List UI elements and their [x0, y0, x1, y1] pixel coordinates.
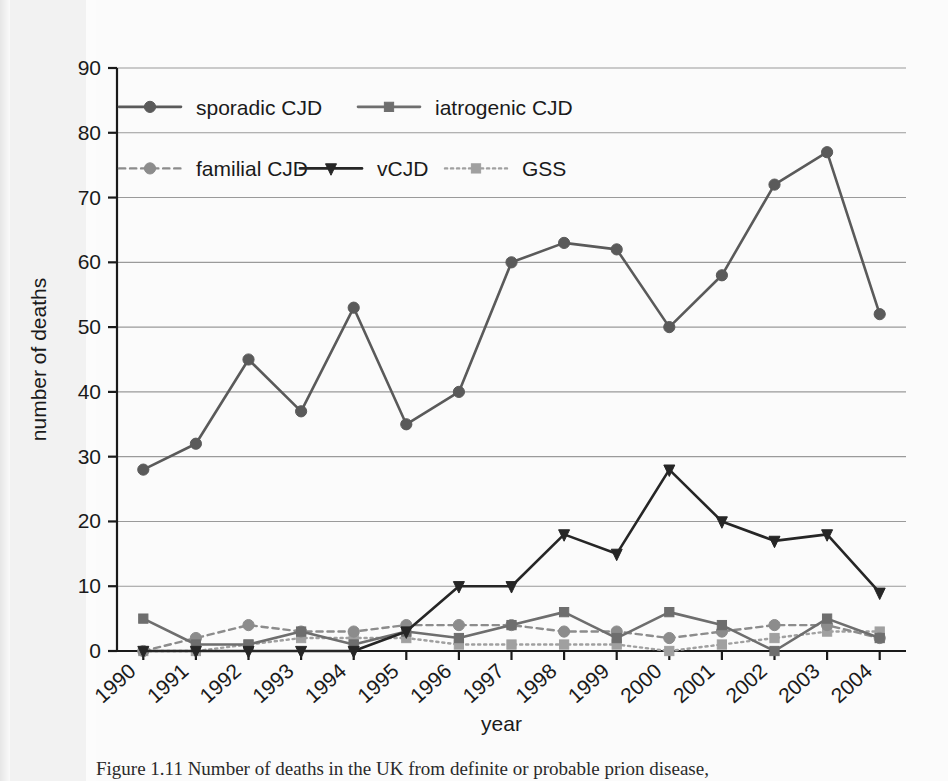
data-point — [770, 646, 779, 655]
data-point — [348, 626, 359, 637]
data-point — [769, 179, 780, 190]
y-axis-title: number of deaths — [27, 278, 50, 441]
legend-label: familial CJD — [196, 157, 308, 180]
chart-figure: 0102030405060708090199019911992199319941… — [0, 0, 948, 740]
data-point — [717, 620, 726, 629]
data-point — [717, 640, 726, 649]
y-tick-label: 20 — [78, 509, 101, 532]
y-tick-label: 50 — [78, 315, 101, 338]
x-tick-label: 2004 — [826, 659, 876, 708]
data-point — [507, 620, 516, 629]
line-chart: 0102030405060708090199019911992199319941… — [0, 0, 948, 740]
data-point — [559, 640, 568, 649]
x-tick-label: 1992 — [195, 659, 245, 707]
x-tick-label: 1994 — [300, 659, 350, 708]
data-point — [769, 619, 780, 630]
data-point — [664, 632, 675, 643]
legend-marker — [144, 163, 155, 174]
data-point — [611, 244, 622, 255]
y-tick-label: 60 — [78, 250, 101, 273]
data-point — [559, 626, 570, 637]
data-point — [138, 464, 149, 475]
data-point — [453, 386, 464, 397]
x-tick-label: 1993 — [248, 659, 298, 707]
data-point — [875, 633, 884, 642]
legend-marker — [384, 102, 393, 111]
data-point — [243, 619, 254, 630]
data-point — [822, 614, 831, 623]
data-point — [559, 608, 568, 617]
data-point — [665, 646, 674, 655]
y-tick-label: 0 — [89, 639, 101, 662]
data-point — [665, 608, 674, 617]
data-point — [822, 147, 833, 158]
data-point — [296, 627, 305, 636]
data-point — [507, 640, 516, 649]
y-tick-label: 40 — [78, 380, 101, 403]
y-tick-label: 10 — [78, 574, 101, 597]
y-tick-label: 90 — [78, 56, 101, 79]
data-point — [612, 633, 621, 642]
x-tick-label: 1990 — [90, 659, 140, 707]
x-tick-label: 1995 — [353, 659, 403, 707]
data-point — [664, 322, 675, 333]
figure-caption: Figure 1.11 Number of deaths in the UK f… — [96, 757, 896, 781]
data-point — [874, 309, 885, 320]
data-point — [506, 257, 517, 268]
legend-label: vCJD — [377, 157, 428, 180]
y-tick-label: 80 — [78, 121, 101, 144]
x-tick-label: 1997 — [458, 659, 508, 707]
figure-page: 0102030405060708090199019911992199319941… — [0, 0, 948, 781]
data-point — [296, 406, 307, 417]
data-point — [401, 419, 412, 430]
data-point — [559, 237, 570, 248]
x-tick-label: 2002 — [721, 659, 771, 707]
x-tick-label: 2003 — [774, 659, 824, 707]
y-tick-label: 70 — [78, 186, 101, 209]
legend-marker — [471, 164, 480, 173]
legend-label: iatrogenic CJD — [435, 96, 573, 119]
y-tick-label: 30 — [78, 445, 101, 468]
x-tick-label: 2001 — [668, 659, 718, 707]
x-tick-label: 2000 — [616, 659, 666, 707]
x-tick-label: 1991 — [142, 659, 192, 707]
legend-label: sporadic CJD — [196, 96, 322, 119]
legend-marker — [144, 101, 155, 112]
data-point — [770, 633, 779, 642]
data-point — [454, 633, 463, 642]
x-tick-label: 1999 — [563, 659, 613, 707]
x-tick-label: 1998 — [511, 659, 561, 707]
legend-label: GSS — [522, 157, 566, 180]
plot-background — [117, 68, 906, 651]
data-point — [348, 302, 359, 313]
data-point — [190, 438, 201, 449]
data-point — [716, 270, 727, 281]
x-axis-title: year — [481, 712, 522, 735]
data-point — [243, 354, 254, 365]
data-point — [139, 614, 148, 623]
data-point — [453, 619, 464, 630]
x-tick-label: 1996 — [405, 659, 455, 707]
